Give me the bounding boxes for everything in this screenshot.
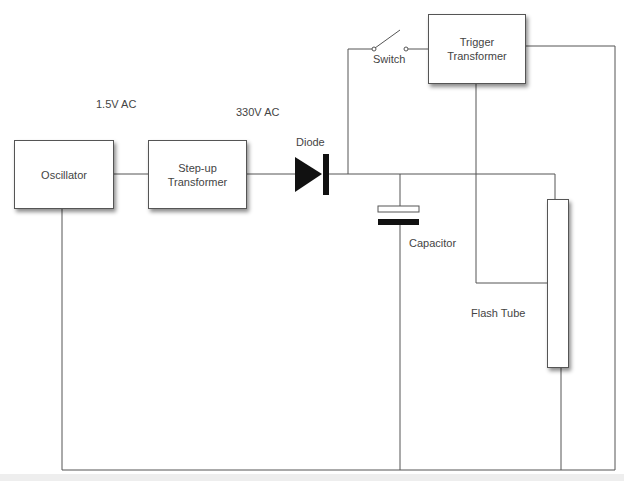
flash-tube-block[interactable] — [547, 199, 569, 368]
input-voltage-label: 1.5V AC — [96, 98, 136, 111]
capacitor-symbol — [378, 206, 419, 225]
oscillator-block[interactable]: Oscillator — [14, 140, 114, 209]
oscillator-label: Oscillator — [41, 168, 87, 182]
capacitor-label: Capacitor — [409, 237, 456, 250]
diode-symbol — [295, 154, 329, 195]
stepup-transformer-block[interactable]: Step-up Transformer — [148, 140, 247, 209]
trigger-label-line1: Trigger — [460, 36, 494, 48]
switch-symbol[interactable] — [372, 30, 408, 51]
circuit-wires — [0, 0, 624, 481]
output-voltage-label: 330V AC — [236, 106, 279, 119]
switch-label: Switch — [373, 53, 405, 66]
bottom-edge — [0, 474, 624, 481]
stepup-label-line1: Step-up — [178, 162, 217, 174]
stepup-label-line2: Transformer — [168, 176, 228, 188]
trigger-label-line2: Transformer — [447, 50, 507, 62]
flash-tube-label: Flash Tube — [471, 307, 525, 320]
trigger-transformer-block[interactable]: Trigger Transformer — [428, 14, 526, 84]
diode-label: Diode — [296, 136, 325, 149]
